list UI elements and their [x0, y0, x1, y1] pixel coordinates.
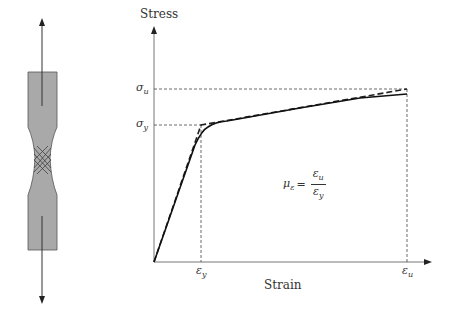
- sigma-u-label: σu: [136, 81, 149, 96]
- x-axis-title: Strain: [264, 278, 302, 292]
- eps-y-label: εy: [196, 264, 206, 279]
- diagram-canvas: [0, 0, 454, 319]
- y-axis-title: Stress: [140, 7, 178, 21]
- formula-denominator: εy: [313, 185, 323, 202]
- eps-u-label: εu: [402, 264, 413, 279]
- formula-equals: =: [296, 178, 305, 191]
- formula-fraction: εu εy: [311, 167, 326, 202]
- reference-lines: [154, 89, 407, 262]
- actual-stress-strain-curve: [154, 94, 407, 262]
- sigma-y-label: σy: [136, 117, 148, 132]
- tensile-specimen: [28, 22, 57, 300]
- idealized-bilinear-curve: [154, 89, 407, 262]
- formula-numerator: εu: [311, 167, 326, 185]
- ductility-formula: με = εu εy: [283, 167, 326, 202]
- formula-lhs: με: [283, 177, 294, 192]
